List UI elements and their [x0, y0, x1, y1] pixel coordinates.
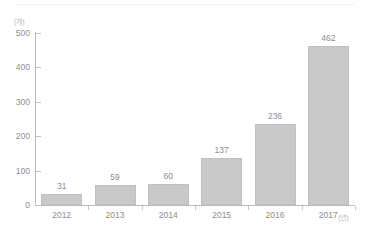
bar	[148, 184, 189, 205]
y-axis-tick	[36, 102, 41, 103]
y-axis-tick	[36, 171, 41, 172]
x-axis-tick	[302, 206, 303, 210]
y-axis-tick	[36, 67, 41, 68]
y-axis-unit-label: (개)	[14, 16, 25, 26]
bar-value-label: 462	[303, 34, 353, 43]
y-axis-tick-label: 500	[0, 29, 30, 38]
bar-value-label: 137	[197, 146, 247, 155]
y-axis-tick-label: 300	[0, 98, 30, 107]
x-axis-tick	[355, 206, 356, 210]
y-axis-tick	[36, 136, 41, 137]
bar-value-label: 236	[250, 112, 300, 121]
bar	[201, 158, 242, 205]
top-divider	[14, 4, 355, 5]
x-axis-category-label: 2016	[250, 211, 300, 220]
y-axis-tick	[36, 33, 41, 34]
bar	[95, 185, 136, 205]
x-axis-category-label: 2012	[37, 211, 87, 220]
x-axis-tick	[248, 206, 249, 210]
y-axis-line	[35, 32, 36, 206]
bar	[41, 194, 82, 205]
x-axis-category-label: 2014	[143, 211, 193, 220]
x-axis-category-label: 2017	[303, 211, 353, 220]
x-axis-tick	[195, 206, 196, 210]
x-axis-category-label: 2015	[197, 211, 247, 220]
bar-value-label: 59	[90, 173, 140, 182]
bar-chart: (개) (년) 0100200300400500 201220132014201…	[0, 0, 370, 239]
y-axis-tick-label: 400	[0, 63, 30, 72]
y-axis-tick	[36, 205, 41, 206]
y-axis-tick-label: 0	[0, 201, 30, 210]
y-axis-tick-label: 100	[0, 167, 30, 176]
y-axis-tick-label: 200	[0, 132, 30, 141]
x-axis-tick	[142, 206, 143, 210]
bar	[308, 46, 349, 205]
x-axis-tick	[88, 206, 89, 210]
bar-value-label: 31	[37, 182, 87, 191]
bar	[255, 124, 296, 205]
bar-value-label: 60	[143, 172, 193, 181]
x-axis-category-label: 2013	[90, 211, 140, 220]
